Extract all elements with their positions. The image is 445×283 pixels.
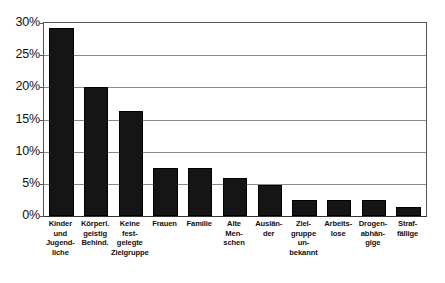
x-axis-category-label-line: fest- bbox=[108, 229, 151, 239]
x-axis-category-label-line: Zielgruppe bbox=[108, 248, 151, 258]
x-axis-category-label-line: gelegte bbox=[108, 238, 151, 248]
x-axis-category-label-line: bekannt bbox=[282, 248, 325, 258]
y-axis-tick-label: 10% bbox=[0, 144, 40, 157]
x-axis-category-label: Straf-fällige bbox=[386, 219, 429, 238]
y-axis-tick-mark bbox=[40, 216, 44, 217]
bar bbox=[396, 207, 420, 216]
x-axis-category-label-line: schen bbox=[212, 238, 255, 248]
bar bbox=[84, 87, 108, 216]
bar-series bbox=[44, 23, 426, 216]
x-axis-category-label-line: liche bbox=[39, 248, 82, 258]
y-axis-tick-label: 25% bbox=[0, 48, 40, 61]
plot-area bbox=[43, 22, 427, 217]
bar bbox=[292, 200, 316, 216]
x-axis-category-label-line: un- bbox=[282, 238, 325, 248]
bar-chart: 0%5%10%15%20%25%30% KinderundJugend-lich… bbox=[0, 0, 445, 283]
bar bbox=[223, 178, 247, 216]
y-axis-tick-label: 15% bbox=[0, 112, 40, 125]
x-axis-category-labels: KinderundJugend-licheKörperl.geistigBehi… bbox=[43, 219, 425, 283]
bar bbox=[188, 168, 212, 216]
bar bbox=[49, 28, 73, 216]
bar bbox=[153, 168, 177, 216]
y-axis-tick-label: 30% bbox=[0, 16, 40, 29]
x-axis-category-label-line: gige bbox=[351, 238, 394, 248]
y-axis-tick-label: 20% bbox=[0, 80, 40, 93]
bar bbox=[258, 185, 282, 216]
bar bbox=[362, 200, 386, 216]
x-axis-category-label-line: fällige bbox=[386, 229, 429, 239]
y-axis-tick-labels: 0%5%10%15%20%25%30% bbox=[0, 0, 40, 283]
bar bbox=[327, 200, 351, 216]
bar bbox=[119, 111, 143, 216]
x-axis-category-label-line: Straf- bbox=[386, 219, 429, 229]
y-axis-tick-label: 0% bbox=[0, 209, 40, 222]
y-axis-tick-label: 5% bbox=[0, 177, 40, 190]
